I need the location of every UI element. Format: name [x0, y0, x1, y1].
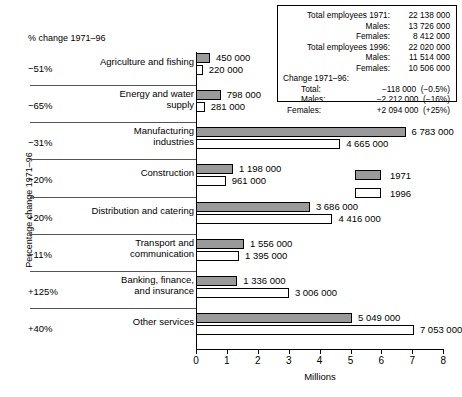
category-label-line: industries [34, 136, 194, 147]
info-row: Males:13 726 000 [283, 21, 450, 32]
category-label-line: Banking, finance, [34, 274, 194, 285]
bar-1996 [196, 65, 203, 75]
bar-value-label: 220 000 [209, 64, 243, 75]
legend-swatch-1971 [355, 170, 381, 180]
category-label-line: communication [34, 248, 194, 259]
x-tick-label: 2 [248, 355, 268, 366]
info-row-value: 22 020 000 [394, 42, 450, 53]
info-row-label: Total employees 1996: [283, 42, 394, 53]
x-tick-label: 1 [217, 355, 237, 366]
bar-value-label: 798 000 [227, 89, 261, 100]
legend-item-1996: 1996 [355, 186, 411, 200]
info-row-label: Females: [283, 31, 394, 42]
category-label: Manufacturingindustries [34, 125, 194, 147]
bar-1996 [196, 139, 340, 149]
percent-change-label: −20% [28, 174, 53, 185]
x-tick-label: 4 [310, 355, 330, 366]
bar-1971 [196, 164, 233, 174]
info-row-label: Females: [283, 105, 354, 116]
chart-legend: 1971 1996 [355, 168, 411, 204]
category-label: Agriculture and fishing [34, 56, 194, 67]
info-row-label: Total employees 1971: [283, 10, 394, 21]
bar-value-label: 7 053 000 [420, 324, 462, 335]
bar-value-label: 450 000 [216, 52, 250, 63]
info-row-label: Males: [283, 52, 394, 63]
legend-label-1996: 1996 [390, 188, 411, 199]
bar-value-label: 1 336 000 [243, 275, 285, 286]
x-tick [381, 349, 382, 354]
category-label-line: Energy and water [34, 88, 194, 99]
category-label: Other services [34, 316, 194, 327]
info-row: Females:8 412 000 [283, 31, 450, 42]
x-tick [258, 349, 259, 354]
group-separator [30, 308, 196, 309]
legend-label-1971: 1971 [390, 170, 411, 181]
bar-value-label: 4 665 000 [346, 138, 388, 149]
bar-1971 [196, 90, 221, 100]
bar-1996 [196, 102, 205, 112]
category-label-line: Construction [34, 167, 194, 178]
group-separator [30, 159, 196, 160]
bar-value-label: 3 006 000 [295, 287, 337, 298]
info-row-value: +2 094 000 (+25%) [354, 105, 450, 116]
info-row-label: Total: [283, 84, 354, 95]
category-label-line: Manufacturing [34, 125, 194, 136]
x-tick [289, 349, 290, 354]
group-separator [30, 271, 196, 272]
category-label: Banking, finance,and insurance [34, 274, 194, 296]
x-tick [196, 349, 197, 354]
bar-1996 [196, 288, 289, 298]
category-label-line: Other services [34, 316, 194, 327]
info-row-label: Males: [283, 21, 394, 32]
bar-1996 [196, 325, 414, 335]
info-row-value: 10 506 000 [394, 63, 450, 74]
category-label-line: Distribution and catering [34, 205, 194, 216]
category-label: Distribution and catering [34, 205, 194, 216]
bar-1971 [196, 127, 406, 137]
info-row-label: Males: [283, 94, 354, 105]
category-label: Transport andcommunication [34, 237, 194, 259]
category-label-line: and insurance [34, 285, 194, 296]
bar-value-label: 5 049 000 [358, 312, 400, 323]
x-axis-title: Millions [196, 371, 444, 382]
legend-item-1971: 1971 [355, 168, 411, 182]
info-row: Change 1971–96: [283, 73, 450, 84]
category-label: Energy and watersupply [34, 88, 194, 110]
bar-value-label: 3 686 000 [316, 201, 358, 212]
bar-value-label: 4 416 000 [338, 213, 380, 224]
summary-info-box: Total employees 1971:22 138 000Males:13 … [277, 5, 457, 102]
legend-swatch-1996 [355, 188, 381, 198]
info-row-value: −2 212 000 (−16%) [354, 94, 450, 105]
percent-change-label: +20% [28, 212, 53, 223]
info-row-value: −118 000 (−0.5%) [354, 84, 450, 95]
x-tick [443, 349, 444, 354]
info-row-label: Females: [283, 63, 394, 74]
bar-1971 [196, 202, 310, 212]
category-label-line: Transport and [34, 237, 194, 248]
percent-change-label: +125% [28, 286, 58, 297]
y-axis-title: Percentage change 1971–96 [24, 125, 34, 295]
info-row: Males:11 514 000 [283, 52, 450, 63]
bar-1996 [196, 214, 332, 224]
x-tick [227, 349, 228, 354]
x-tick-label: 6 [371, 355, 391, 366]
category-label: Construction [34, 167, 194, 178]
category-label-line: Agriculture and fishing [34, 56, 194, 67]
info-row: Total employees 1996:22 020 000 [283, 42, 450, 53]
figure-canvas: Total employees 1971:22 138 000Males:13 … [0, 0, 462, 397]
x-tick [351, 349, 352, 354]
percent-change-label: −51% [28, 63, 53, 74]
bar-value-label: 961 000 [232, 175, 266, 186]
percent-change-label: −65% [28, 100, 53, 111]
info-row-value: 22 138 000 [394, 10, 450, 21]
bar-value-label: 1 556 000 [250, 238, 292, 249]
category-label-line: supply [34, 99, 194, 110]
info-row-value: 8 412 000 [394, 31, 450, 42]
group-separator [30, 122, 196, 123]
bar-1971 [196, 313, 352, 323]
bar-value-label: 1 395 000 [245, 250, 287, 261]
bar-1996 [196, 176, 226, 186]
x-tick-label: 8 [433, 355, 453, 366]
info-row: Total employees 1971:22 138 000 [283, 10, 450, 21]
info-row-value: 13 726 000 [394, 21, 450, 32]
